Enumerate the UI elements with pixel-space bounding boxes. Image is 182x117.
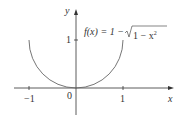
x-tick-label-neg1: −1 — [24, 94, 35, 104]
formula-radicand: 1 − x2 — [133, 28, 157, 41]
y-axis-label: y — [65, 6, 69, 16]
formula-lhs: f(x) = 1 − — [84, 26, 124, 37]
x-tick-label-0: 0 — [67, 91, 72, 101]
y-tick-label-1: 1 — [66, 35, 71, 45]
function-formula: f(x) = 1 − — [84, 27, 124, 37]
formula-exponent: 2 — [154, 30, 157, 36]
x-axis-arrow-icon — [168, 86, 174, 90]
formula-radicand-text: 1 − x — [133, 30, 154, 41]
y-axis-arrow-icon — [74, 9, 78, 15]
x-axis-label: x — [168, 94, 172, 104]
x-tick-label-1: 1 — [120, 94, 125, 104]
